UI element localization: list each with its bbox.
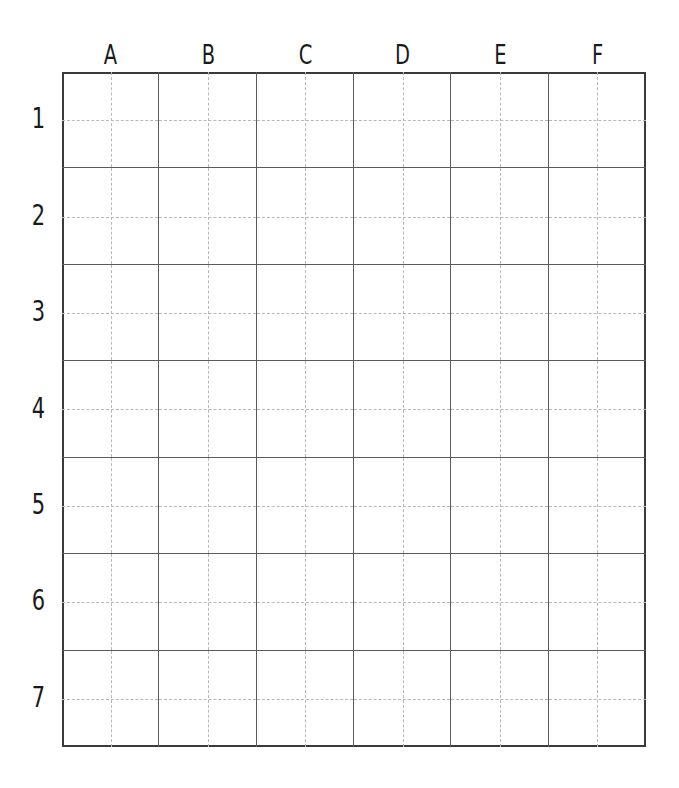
row-label-3: 3 — [32, 295, 55, 328]
guide-line-horizontal — [257, 313, 353, 314]
grid-cell-d5 — [354, 458, 451, 554]
guide-line-horizontal — [159, 120, 255, 121]
grid-cell-f3 — [549, 265, 646, 361]
grid-cell-a3 — [62, 265, 159, 361]
grid-cell-b2 — [159, 168, 256, 264]
grid-cell-e5 — [451, 458, 548, 554]
guide-line-horizontal — [451, 602, 547, 603]
guide-line-horizontal — [62, 409, 158, 410]
guide-line-horizontal — [549, 602, 646, 603]
guide-line-horizontal — [451, 313, 547, 314]
grid-cell-d4 — [354, 361, 451, 457]
grid-cell-f5 — [549, 458, 646, 554]
guide-line-horizontal — [257, 602, 353, 603]
grid-cell-f7 — [549, 651, 646, 747]
grid-cell-c5 — [257, 458, 354, 554]
grid-cell-b7 — [159, 651, 256, 747]
guide-line-horizontal — [62, 602, 158, 603]
grid-cell-a7 — [62, 651, 159, 747]
guide-line-horizontal — [62, 506, 158, 507]
grid-cell-c2 — [257, 168, 354, 264]
guide-line-horizontal — [62, 699, 158, 700]
grid-cell-d7 — [354, 651, 451, 747]
grid-cell-a2 — [62, 168, 159, 264]
guide-line-horizontal — [257, 120, 353, 121]
guide-line-horizontal — [62, 313, 158, 314]
guide-line-horizontal — [257, 506, 353, 507]
grid-cell-c3 — [257, 265, 354, 361]
grid-cell-e2 — [451, 168, 548, 264]
grid-cell-e3 — [451, 265, 548, 361]
grid-cell-d1 — [354, 72, 451, 168]
grid-cell-e7 — [451, 651, 548, 747]
grid-cell-e4 — [451, 361, 548, 457]
guide-line-horizontal — [451, 506, 547, 507]
grid-cell-f2 — [549, 168, 646, 264]
grid-cell-b6 — [159, 554, 256, 650]
column-label-e: E — [464, 40, 537, 70]
guide-line-horizontal — [354, 120, 450, 121]
grid-cell-a5 — [62, 458, 159, 554]
guide-line-horizontal — [549, 120, 646, 121]
guide-line-horizontal — [257, 217, 353, 218]
grid-cell-f1 — [549, 72, 646, 168]
row-label-5: 5 — [32, 488, 55, 521]
grid-cell-c4 — [257, 361, 354, 457]
grid-cell-d2 — [354, 168, 451, 264]
guide-line-horizontal — [354, 602, 450, 603]
row-label-6: 6 — [32, 584, 55, 617]
grid-cell-d3 — [354, 265, 451, 361]
grid-cell-c1 — [257, 72, 354, 168]
column-label-c: C — [269, 40, 342, 70]
row-label-1: 1 — [32, 102, 55, 135]
guide-line-horizontal — [451, 217, 547, 218]
guide-line-horizontal — [354, 313, 450, 314]
guide-line-horizontal — [451, 699, 547, 700]
guide-line-horizontal — [451, 120, 547, 121]
grid-cell-a1 — [62, 72, 159, 168]
column-label-a: A — [74, 40, 147, 70]
guide-line-horizontal — [62, 120, 158, 121]
guide-line-horizontal — [159, 699, 255, 700]
column-label-d: D — [366, 40, 439, 70]
guide-line-horizontal — [62, 217, 158, 218]
guide-line-horizontal — [549, 506, 646, 507]
guide-line-horizontal — [549, 313, 646, 314]
grid-cell-e6 — [451, 554, 548, 650]
guide-line-horizontal — [354, 699, 450, 700]
row-label-4: 4 — [32, 392, 55, 425]
grid-cell-c6 — [257, 554, 354, 650]
grid-cell-b3 — [159, 265, 256, 361]
guide-line-horizontal — [257, 699, 353, 700]
guide-line-horizontal — [451, 409, 547, 410]
grid-cell-d6 — [354, 554, 451, 650]
grid-cell-c7 — [257, 651, 354, 747]
guide-line-horizontal — [549, 699, 646, 700]
guide-line-horizontal — [159, 217, 255, 218]
guide-line-horizontal — [549, 409, 646, 410]
grid-cell-e1 — [451, 72, 548, 168]
guide-line-horizontal — [159, 313, 255, 314]
grid-cell-b5 — [159, 458, 256, 554]
grid-cell-a6 — [62, 554, 159, 650]
grid-cell-f6 — [549, 554, 646, 650]
grid-cell-b1 — [159, 72, 256, 168]
guide-line-horizontal — [549, 217, 646, 218]
guide-line-horizontal — [257, 409, 353, 410]
guide-line-horizontal — [354, 217, 450, 218]
row-label-2: 2 — [32, 199, 55, 232]
guide-line-horizontal — [159, 602, 255, 603]
guide-line-horizontal — [354, 506, 450, 507]
drawing-grid — [62, 72, 646, 747]
grid-cell-a4 — [62, 361, 159, 457]
grid-cell-f4 — [549, 361, 646, 457]
row-label-7: 7 — [32, 681, 55, 714]
column-label-b: B — [172, 40, 245, 70]
grid-cell-b4 — [159, 361, 256, 457]
column-label-f: F — [561, 40, 634, 70]
guide-line-horizontal — [354, 409, 450, 410]
guide-line-horizontal — [159, 409, 255, 410]
guide-line-horizontal — [159, 506, 255, 507]
